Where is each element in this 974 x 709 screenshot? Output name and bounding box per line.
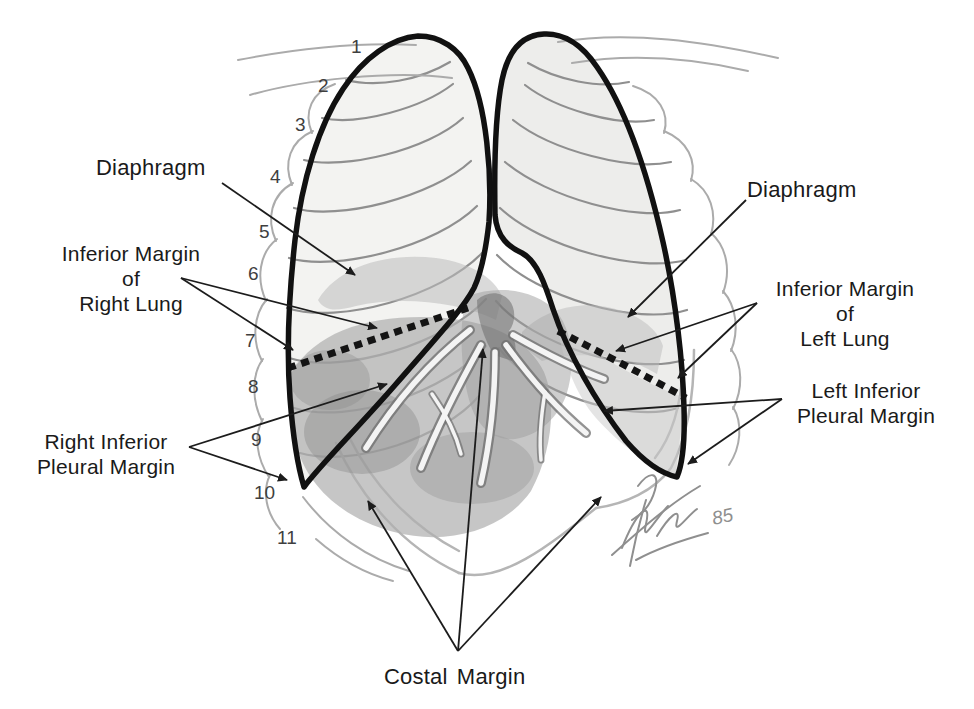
- left-inferior-pleural-margin-label: Left Inferior Pleural Margin: [772, 378, 960, 428]
- inferior-margin-left-lung-line3: Left Lung: [754, 326, 936, 351]
- rib-number-3: 3: [295, 114, 306, 136]
- left-inferior-pleural-margin-line2: Pleural Margin: [772, 403, 960, 428]
- right-inferior-pleural-margin-line2: Pleural Margin: [14, 454, 198, 479]
- anatomy-diagram: Diaphragm Inferior Margin of Right Lung …: [0, 0, 974, 709]
- inferior-margin-right-lung-label: Inferior Margin of Right Lung: [40, 241, 222, 316]
- left-inferior-pleural-margin-line1: Left Inferior: [772, 378, 960, 403]
- diaphragm-left-label: Diaphragm: [96, 155, 205, 180]
- inferior-margin-left-lung-label: Inferior Margin of Left Lung: [754, 276, 936, 351]
- right-inferior-pleural-margin-line1: Right Inferior: [14, 429, 198, 454]
- inferior-margin-right-lung-line2: of: [40, 266, 222, 291]
- rib-number-7: 7: [245, 330, 256, 352]
- inferior-margin-left-lung-arrow-2: [678, 303, 757, 378]
- rib-number-9: 9: [251, 429, 262, 451]
- inferior-margin-left-lung-line1: Inferior Margin: [754, 276, 936, 301]
- illustration: [0, 0, 974, 709]
- rib-number-6: 6: [248, 263, 259, 285]
- rib-number-10: 10: [254, 482, 275, 504]
- rib-number-11: 11: [277, 527, 297, 549]
- inferior-margin-left-lung-line2: of: [754, 301, 936, 326]
- signature-year: 85: [710, 504, 735, 530]
- right-inferior-pleural-margin-arrow-2: [189, 447, 287, 480]
- inferior-margin-right-lung-line1: Inferior Margin: [40, 241, 222, 266]
- rib-number-4: 4: [270, 166, 281, 188]
- rib-number-8: 8: [248, 376, 259, 398]
- rib-number-5: 5: [259, 221, 270, 243]
- diaphragm-right-label: Diaphragm: [747, 177, 856, 202]
- costal-margin-label: Costal Margin: [384, 664, 525, 689]
- rib-number-1: 1: [351, 36, 362, 58]
- inferior-margin-right-lung-line3: Right Lung: [40, 291, 222, 316]
- right-inferior-pleural-margin-label: Right Inferior Pleural Margin: [14, 429, 198, 479]
- artist-signature: [612, 475, 708, 566]
- rib-number-2: 2: [318, 75, 329, 97]
